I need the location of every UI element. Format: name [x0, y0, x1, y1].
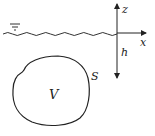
surface-label: S — [91, 70, 99, 83]
x-axis-label: x — [140, 36, 147, 49]
free-surface-wave — [3, 33, 117, 36]
water-level-icon — [10, 24, 20, 30]
z-axis-label: z — [121, 3, 128, 16]
diagram-canvas: z x h V S — [0, 0, 155, 136]
depth-label: h — [121, 46, 128, 59]
volume-label: V — [49, 87, 60, 102]
